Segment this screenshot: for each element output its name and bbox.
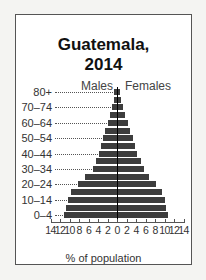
- age-label: 70–74: [16, 102, 52, 112]
- age-label: 20–24: [16, 179, 52, 189]
- age-label: 40–44: [16, 149, 52, 159]
- male-bar: [66, 205, 117, 211]
- female-bar: [117, 120, 128, 126]
- female-bar: [117, 158, 141, 164]
- male-bar: [99, 151, 117, 157]
- female-bar: [117, 135, 133, 141]
- male-bar: [71, 189, 117, 195]
- x-tick-label: 14: [177, 225, 191, 235]
- age-label: 0–4: [16, 210, 52, 220]
- x-tick: [127, 219, 128, 223]
- x-axis-label: % of population: [16, 252, 191, 264]
- male-bar: [64, 212, 117, 218]
- x-tick: [98, 219, 99, 223]
- population-pyramid: 80+70–7460–6450–5440–4430–3420–2410–140–…: [16, 15, 193, 266]
- male-bar: [78, 181, 117, 187]
- female-bar: [117, 166, 144, 172]
- male-bar: [105, 128, 117, 134]
- x-tick: [108, 219, 109, 223]
- x-tick: [117, 219, 118, 223]
- x-tick: [79, 219, 80, 223]
- female-bar: [117, 174, 149, 180]
- leader-line: [55, 154, 98, 155]
- leader-line: [55, 123, 107, 124]
- male-bar: [103, 135, 117, 141]
- age-label: 80+: [16, 87, 52, 97]
- x-tick: [174, 219, 175, 223]
- male-bar: [93, 166, 117, 172]
- male-bar: [68, 197, 117, 203]
- leader-line: [55, 107, 111, 108]
- female-bar: [117, 143, 135, 149]
- x-tick: [146, 219, 147, 223]
- male-bar: [101, 143, 117, 149]
- leader-line: [55, 138, 102, 139]
- male-bar: [110, 112, 117, 118]
- female-bar: [117, 181, 156, 187]
- leader-line: [55, 92, 113, 93]
- leader-line: [55, 184, 77, 185]
- male-bar: [85, 174, 117, 180]
- female-bar: [117, 151, 137, 157]
- leader-line: [55, 215, 63, 216]
- x-tick: [155, 219, 156, 223]
- leader-line: [55, 200, 67, 201]
- x-tick: [136, 219, 137, 223]
- x-tick: [184, 219, 185, 223]
- x-tick: [51, 219, 52, 223]
- male-bar: [108, 120, 118, 126]
- age-label: 60–64: [16, 118, 52, 128]
- age-label: 50–54: [16, 133, 52, 143]
- female-bar: [117, 205, 166, 211]
- x-tick: [165, 219, 166, 223]
- center-line: [117, 87, 118, 220]
- female-bar: [117, 197, 165, 203]
- chart-card: Guatemala, 2014 Males Females 80+70–7460…: [15, 14, 192, 265]
- x-tick: [60, 219, 61, 223]
- x-tick: [70, 219, 71, 223]
- male-bar: [96, 158, 117, 164]
- age-label: 10–14: [16, 195, 52, 205]
- female-bar: [117, 212, 168, 218]
- x-tick: [89, 219, 90, 223]
- female-bar: [117, 112, 125, 118]
- female-bar: [117, 189, 162, 195]
- female-bar: [117, 128, 130, 134]
- age-label: 30–34: [16, 164, 52, 174]
- leader-line: [55, 169, 92, 170]
